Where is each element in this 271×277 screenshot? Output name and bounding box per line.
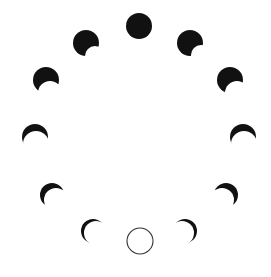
moon-phase-mid-left-icon [22,124,48,150]
moon-phase-mid-right-icon [230,124,256,150]
moon-phase-group [22,13,256,254]
moon-phase-bottom-left-icon [81,219,105,243]
moon-phases-svg [0,0,271,277]
moon-phase-mid-upper-left-icon [33,67,59,93]
moon-phase-bottom-full-icon [127,228,153,254]
moon-phase-upper-right-icon [177,30,203,56]
moon-phase-bottom-right-icon [173,219,197,243]
moon-phases-diagram [0,0,271,277]
moon-phase-upper-left-icon [73,30,99,56]
moon-phase-lower-left-icon [40,183,64,207]
moon-phase-lower-right-icon [214,183,238,207]
moon-phase-top-dark-icon [126,13,152,39]
moon-phase-mid-upper-right-icon [217,67,243,93]
